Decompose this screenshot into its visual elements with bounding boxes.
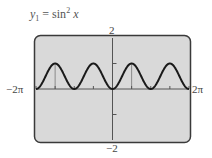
x-max-label: 2π bbox=[192, 83, 203, 95]
y-max-label: 2 bbox=[109, 24, 115, 36]
x-min-label: −2π bbox=[6, 83, 23, 95]
y-min-label: −2 bbox=[106, 142, 118, 154]
calculator-screen-plot bbox=[0, 0, 212, 158]
